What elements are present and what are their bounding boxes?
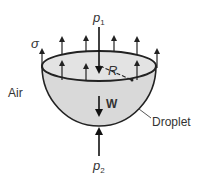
air-label: Air — [8, 86, 23, 100]
droplet-free-body-diagram: p1 σ R W Air Droplet p2 — [0, 0, 206, 178]
droplet-label: Droplet — [152, 115, 191, 129]
droplet-leader-line — [139, 109, 151, 118]
sigma-label: σ — [31, 36, 40, 51]
weight-label: W — [106, 97, 118, 111]
p2-label: p2 — [92, 158, 105, 175]
radius-label: R — [108, 63, 117, 78]
p1-label: p1 — [92, 10, 105, 27]
